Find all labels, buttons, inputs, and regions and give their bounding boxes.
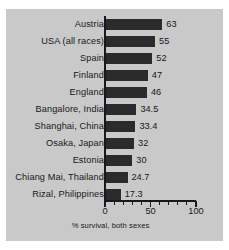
x-axis-tick-minor <box>132 201 133 205</box>
bar-track: 32 <box>105 135 223 152</box>
category-label: Spain <box>8 50 104 67</box>
x-axis-tick-label: 100 <box>188 206 203 216</box>
bar <box>105 155 132 166</box>
bar-row: Finland 47 <box>6 67 223 84</box>
bar <box>105 172 128 183</box>
x-axis-title: % survival, both sexes <box>6 221 215 230</box>
bar-value-label: 55 <box>159 33 169 50</box>
bar-track: 34.5 <box>105 101 223 118</box>
bar <box>105 121 135 132</box>
x-axis-tick-label: 50 <box>145 206 155 216</box>
bar-value-label: 33.4 <box>139 118 157 135</box>
x-axis-tick-minor <box>141 201 142 205</box>
bar-row: Shanghai, China 33.4 <box>6 118 223 135</box>
category-label: Rizal, Philippines <box>8 186 104 203</box>
bar-track: 52 <box>105 50 223 67</box>
bar <box>105 138 134 149</box>
bar-value-label: 52 <box>156 50 166 67</box>
bar-track: 55 <box>105 33 223 50</box>
bar-track: 24.7 <box>105 169 223 186</box>
bar-row: Estonia 30 <box>6 152 223 169</box>
bar-row: Osaka, Japan 32 <box>6 135 223 152</box>
category-label: Austria <box>8 16 104 33</box>
bar-value-label: 32 <box>138 135 148 152</box>
y-axis-line <box>104 16 106 201</box>
x-axis-tick-minor <box>186 201 187 205</box>
bar <box>105 189 121 200</box>
bar <box>105 19 162 30</box>
bar <box>105 36 155 47</box>
category-label: Osaka, Japan <box>8 135 104 152</box>
category-label: England <box>8 84 104 101</box>
bar <box>105 87 147 98</box>
category-label: Chiang Mai, Thailand <box>8 169 104 186</box>
x-axis-tick-label: 0 <box>102 206 107 216</box>
bar <box>105 53 152 64</box>
category-label: Finland <box>8 67 104 84</box>
category-label: USA (all races) <box>8 33 104 50</box>
bar-track: 63 <box>105 16 223 33</box>
bar-track: 46 <box>105 84 223 101</box>
bar-track: 47 <box>105 67 223 84</box>
bar-row: Chiang Mai, Thailand 24.7 <box>6 169 223 186</box>
x-axis-tick-minor <box>123 201 124 205</box>
bar-track: 33.4 <box>105 118 223 135</box>
bar-value-label: 24.7 <box>132 169 150 186</box>
x-axis-tick-minor <box>114 201 115 205</box>
category-label: Bangalore, India <box>8 101 104 118</box>
bar-row: England 46 <box>6 84 223 101</box>
bar-chart-figure: Austria 63 USA (all races) 55 Spain 52 F… <box>6 9 223 241</box>
bar-value-label: 46 <box>151 84 161 101</box>
bar-row: Bangalore, India 34.5 <box>6 101 223 118</box>
bar-value-label: 34.5 <box>140 101 158 118</box>
x-axis-tick-minor <box>159 201 160 205</box>
bar <box>105 70 148 81</box>
x-axis-tick-minor <box>168 201 169 205</box>
bar <box>105 104 136 115</box>
category-label: Shanghai, China <box>8 118 104 135</box>
bar-value-label: 30 <box>136 152 146 169</box>
bar-row: USA (all races) 55 <box>6 33 223 50</box>
bar-row: Austria 63 <box>6 16 223 33</box>
bar-track: 30 <box>105 152 223 169</box>
bar-value-label: 47 <box>152 67 162 84</box>
bar-value-label: 63 <box>166 16 176 33</box>
category-label: Estonia <box>8 152 104 169</box>
plot-area: Austria 63 USA (all races) 55 Spain 52 F… <box>6 9 223 241</box>
x-axis-tick-minor <box>177 201 178 205</box>
bar-row: Spain 52 <box>6 50 223 67</box>
